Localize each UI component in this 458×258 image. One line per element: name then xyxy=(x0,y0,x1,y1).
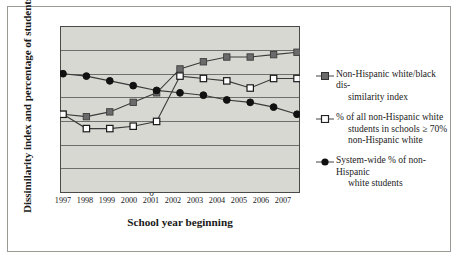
data-point xyxy=(107,125,113,131)
data-point xyxy=(294,49,300,55)
legend-label: non-Hispanic white xyxy=(336,135,448,146)
data-point xyxy=(83,73,90,80)
legend-label: Non-Hispanic white/black dis- xyxy=(336,69,448,92)
data-point xyxy=(107,109,113,115)
series-1 xyxy=(60,73,300,132)
legend-label: students in schools ≥ 70% xyxy=(336,124,448,135)
data-point xyxy=(247,99,254,106)
data-point xyxy=(247,85,253,91)
legend-label: % of all non-Hispanic white xyxy=(336,112,448,123)
data-point xyxy=(224,54,230,60)
legend-label: similarity index xyxy=(336,92,448,103)
data-point xyxy=(60,70,66,77)
data-point xyxy=(224,78,230,84)
open-square-marker-icon xyxy=(316,115,334,123)
legend-item[interactable]: System-wide % of non-Hispanic white stud… xyxy=(316,155,448,189)
data-point xyxy=(177,73,183,79)
filled-square-marker-icon xyxy=(316,72,334,80)
data-point xyxy=(270,75,276,81)
chart-legend: Non-Hispanic white/black dis- similarity… xyxy=(316,69,448,199)
series-line xyxy=(63,76,297,128)
legend-item[interactable]: Non-Hispanic white/black dis- similarity… xyxy=(316,69,448,103)
data-point xyxy=(247,54,253,60)
data-point xyxy=(130,99,136,105)
data-point xyxy=(200,59,206,65)
data-point xyxy=(177,66,183,72)
x-tick-label: 2007 xyxy=(263,197,303,205)
data-point xyxy=(270,51,276,57)
data-point xyxy=(83,113,89,119)
x-axis-title: School year beginning xyxy=(60,216,300,228)
data-point xyxy=(270,104,277,111)
data-point xyxy=(130,82,137,89)
data-point xyxy=(153,118,159,124)
legend-item[interactable]: % of all non-Hispanic white students in … xyxy=(316,112,448,146)
data-point xyxy=(200,75,206,81)
legend-label: white students xyxy=(336,178,448,189)
chart-figure: Dissimilarity index and percentage of st… xyxy=(7,6,451,252)
series-overlay xyxy=(60,26,300,193)
data-point xyxy=(60,111,66,117)
filled-circle-marker-icon xyxy=(316,158,334,166)
data-point xyxy=(83,125,89,131)
series-0 xyxy=(60,49,300,120)
data-point xyxy=(177,89,184,96)
data-point xyxy=(130,123,136,129)
data-point xyxy=(153,87,160,94)
legend-label: System-wide % of non-Hispanic xyxy=(336,155,448,178)
y-axis-title: Dissimilarity index and percentage of st… xyxy=(21,3,33,213)
data-point xyxy=(223,97,230,104)
data-point xyxy=(200,92,207,99)
data-point xyxy=(106,77,113,84)
series-line xyxy=(63,52,297,116)
data-point xyxy=(294,111,300,118)
data-point xyxy=(294,75,300,81)
